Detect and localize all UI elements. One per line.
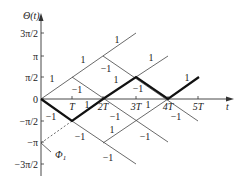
- branch-label: 1: [114, 74, 119, 85]
- branch-label: −1: [171, 111, 182, 122]
- phase-branch-line: [41, 33, 136, 99]
- branch-label: 1: [115, 34, 120, 45]
- branch-label: 1: [50, 73, 55, 84]
- phase-label: Φ1: [55, 149, 66, 162]
- x-tick-label: 5T: [193, 101, 205, 112]
- branch-label: −1: [46, 111, 57, 122]
- phase-annotations: [41, 121, 72, 152]
- branch-label: 1: [146, 99, 151, 110]
- diagram-svg: Θ(t) t 3π/2ππ/20−π/2−π−3π/2 T2T3T4T5T 11…: [0, 0, 251, 188]
- x-tick-label: 3T: [130, 101, 143, 112]
- x-axis-label: t: [226, 101, 229, 112]
- y-tick-label: π: [33, 51, 38, 62]
- branch-label: 1: [185, 72, 190, 83]
- phase-label-sub: 1: [63, 154, 67, 162]
- branch-label: 1: [149, 52, 154, 63]
- branch-label: −1: [140, 131, 151, 142]
- y-tick-label: −π: [27, 137, 38, 148]
- y-axis-label: Θ(t): [23, 10, 40, 22]
- branch-label: 1: [85, 99, 90, 110]
- y-tick-label: 3π/2: [20, 28, 38, 39]
- y-tick-label: −3π/2: [15, 159, 38, 170]
- phase-label-leader: [41, 143, 51, 152]
- branch-label: −1: [133, 83, 144, 94]
- y-ticks: 3π/2ππ/20−π/2−π−3π/2: [15, 28, 44, 170]
- branch-label: −1: [75, 131, 86, 142]
- phase-tree-diagram: Θ(t) t 3π/2ππ/20−π/2−π−3π/2 T2T3T4T5T 11…: [0, 0, 251, 188]
- branch-label: −1: [110, 111, 121, 122]
- branch-label: −1: [101, 63, 112, 74]
- phase-branches: [41, 33, 198, 164]
- branch-label: −1: [72, 84, 83, 95]
- y-tick-label: π/2: [25, 72, 38, 83]
- y-tick-label: −π/2: [20, 116, 38, 127]
- branch-label: 1: [110, 124, 115, 135]
- x-tick-label: T: [69, 101, 76, 112]
- branch-label: −1: [103, 152, 114, 163]
- y-tick-label: 0: [33, 94, 38, 105]
- branch-label: 1: [81, 54, 86, 65]
- dashed-initial-phase-line: [41, 121, 72, 143]
